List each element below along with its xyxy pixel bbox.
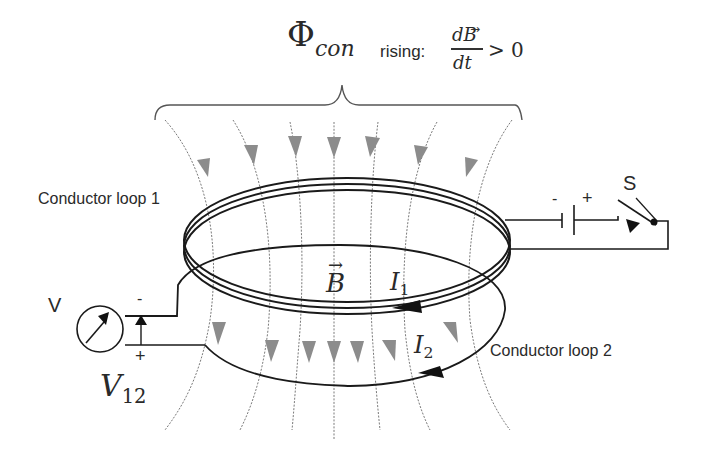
induction-diagram: Φ con rising: dB dt > 0 Conductor loop 1… — [0, 0, 704, 450]
i2-label: I2 — [414, 331, 433, 359]
fraction-denominator: dt — [453, 52, 472, 73]
switch-pivot — [651, 219, 658, 226]
loop-2-label: Conductor loop 2 — [490, 342, 612, 360]
i1-label: I1 — [390, 268, 409, 296]
inequality: > 0 — [488, 38, 524, 62]
flux-symbol: Φ — [287, 14, 315, 54]
fraction-bar — [451, 48, 483, 50]
conductor-loop-1 — [184, 178, 510, 314]
switch-label: S — [623, 172, 636, 195]
field-arrows-top — [197, 136, 478, 177]
flux-subscript: con — [315, 36, 355, 61]
switch-contact-arrow — [626, 219, 640, 233]
loop-1-label: Conductor loop 1 — [38, 190, 160, 208]
volt-minus: - — [137, 290, 142, 308]
v12-label: V12 — [100, 368, 147, 403]
b-vector-arrow-icon: → — [470, 22, 480, 36]
conductor-loop-2 — [125, 245, 505, 386]
rising-label: rising: — [380, 42, 425, 62]
battery-minus: - — [552, 190, 557, 208]
voltmeter-label: V — [48, 294, 61, 317]
volt-plus: + — [135, 346, 146, 367]
flux-brace — [155, 85, 522, 120]
voltmeter — [77, 306, 123, 352]
battery-plus: + — [582, 188, 593, 209]
b-field-label: → B — [326, 268, 345, 298]
